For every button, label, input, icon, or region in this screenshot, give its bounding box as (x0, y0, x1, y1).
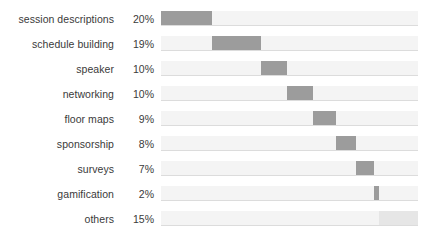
row-baseline (161, 200, 418, 201)
value-label: 2% (114, 188, 154, 200)
bar-track (161, 161, 418, 175)
bar-track-wrapper (161, 31, 418, 56)
value-label: 7% (114, 163, 154, 175)
value-label: 15% (114, 213, 154, 225)
category-label: speaker (0, 63, 114, 75)
bar-track (161, 36, 418, 50)
bar-track-wrapper (161, 156, 418, 181)
bar-segment (379, 211, 418, 225)
category-label: networking (0, 88, 114, 100)
bar-segment (356, 161, 374, 175)
chart-row: others15% (0, 206, 424, 231)
bar-segment (287, 86, 313, 100)
chart-row: surveys7% (0, 156, 424, 181)
chart-row: gamification2% (0, 181, 424, 206)
bar-track-wrapper (161, 81, 418, 106)
value-label: 20% (114, 13, 154, 25)
row-baseline (161, 100, 418, 101)
row-baseline (161, 150, 418, 151)
bar-track (161, 186, 418, 200)
bar-segment (336, 136, 357, 150)
bar-track-wrapper (161, 181, 418, 206)
waterfall-bar-chart: session descriptions20%schedule building… (0, 0, 424, 236)
category-label: gamification (0, 188, 114, 200)
row-baseline (161, 175, 418, 176)
bar-track (161, 136, 418, 150)
chart-row: floor maps9% (0, 106, 424, 131)
chart-row: sponsorship8% (0, 131, 424, 156)
row-baseline (161, 125, 418, 126)
chart-row: speaker10% (0, 56, 424, 81)
row-baseline (161, 50, 418, 51)
row-baseline (161, 25, 418, 26)
value-label: 10% (114, 88, 154, 100)
bar-track-wrapper (161, 106, 418, 131)
bar-segment (161, 11, 212, 25)
bar-segment (261, 61, 287, 75)
bar-track-wrapper (161, 56, 418, 81)
row-baseline (161, 75, 418, 76)
category-label: sponsorship (0, 138, 114, 150)
bar-track (161, 61, 418, 75)
category-label: floor maps (0, 113, 114, 125)
bar-segment (212, 36, 261, 50)
bar-track-wrapper (161, 131, 418, 156)
category-label: schedule building (0, 38, 114, 50)
bar-segment (313, 111, 336, 125)
bar-track (161, 111, 418, 125)
value-label: 8% (114, 138, 154, 150)
row-baseline (161, 225, 418, 226)
category-label: surveys (0, 163, 114, 175)
value-label: 19% (114, 38, 154, 50)
chart-row: schedule building19% (0, 31, 424, 56)
bar-track-wrapper (161, 206, 418, 231)
category-label: others (0, 213, 114, 225)
bar-segment (374, 186, 379, 200)
value-label: 9% (114, 113, 154, 125)
chart-row: networking10% (0, 81, 424, 106)
value-label: 10% (114, 63, 154, 75)
category-label: session descriptions (0, 13, 114, 25)
bar-track-wrapper (161, 6, 418, 31)
chart-row: session descriptions20% (0, 6, 424, 31)
